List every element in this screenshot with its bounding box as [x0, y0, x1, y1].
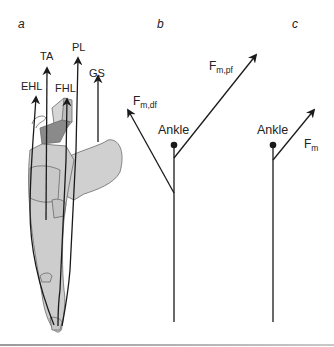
force-label-pf: Fm,pf [209, 59, 234, 75]
ankle-label: Ankle [158, 123, 189, 137]
foot-bones-illustration [29, 98, 123, 332]
force-label-m: Fm [304, 137, 318, 153]
muscle-label-ehl: EHL [21, 80, 42, 92]
panel-a-label: a [18, 17, 25, 31]
panel-c-label: c [292, 17, 298, 31]
ankle-muscle-force-diagram: a [0, 0, 334, 347]
panel-a: a [18, 17, 122, 332]
panel-b-label: b [157, 17, 164, 31]
muscle-label-ta: TA [40, 50, 54, 62]
ankle-joint-dot [270, 142, 277, 149]
muscle-label-gs: GS [89, 67, 105, 79]
panel-c: c Ankle Fm [257, 17, 318, 322]
ankle-joint-dot [171, 142, 178, 149]
ankle-label: Ankle [257, 123, 288, 137]
muscle-label-pl: PL [72, 41, 85, 53]
force-label-df: Fm,df [133, 94, 158, 110]
muscle-label-fhl: FHL [55, 82, 76, 94]
panel-b: b Ankle Fm,df Fm,pf [128, 17, 256, 322]
bottom-divider [0, 344, 334, 346]
